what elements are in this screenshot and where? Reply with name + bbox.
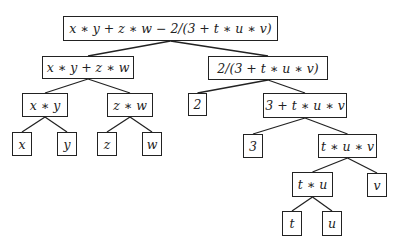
edge-n3-x bbox=[22, 117, 45, 132]
tree-node-n4: z ∗ w bbox=[107, 93, 153, 117]
edge-n6-n7 bbox=[253, 118, 305, 134]
edge-root-n2 bbox=[171, 41, 269, 56]
edge-n6-n8 bbox=[305, 118, 348, 134]
edge-n1-n3 bbox=[45, 79, 88, 93]
tree-node-n6: 3 + t ∗ u ∗ v bbox=[263, 93, 347, 118]
edge-n2-n5 bbox=[198, 80, 269, 93]
tree-node-w: w bbox=[142, 132, 162, 156]
tree-node-n7: 3 bbox=[243, 134, 263, 158]
edge-n8-v bbox=[348, 158, 378, 173]
tree-node-z: z bbox=[97, 132, 117, 156]
tree-node-y: y bbox=[57, 132, 77, 156]
edge-root-n1 bbox=[88, 41, 171, 56]
edge-n9-t bbox=[292, 197, 313, 211]
tree-node-v: v bbox=[367, 173, 387, 197]
tree-node-n9: t ∗ u bbox=[292, 172, 333, 197]
expression-tree-diagram: x ∗ y + z ∗ w − 2/(3 + t ∗ u ∗ v)x ∗ y +… bbox=[0, 0, 401, 251]
tree-node-n2: 2/(3 + t ∗ u ∗ v) bbox=[208, 56, 328, 80]
edge-n1-n4 bbox=[88, 79, 130, 93]
tree-node-n8: t ∗ u ∗ v bbox=[318, 134, 377, 158]
tree-node-x: x bbox=[12, 132, 32, 156]
tree-node-root: x ∗ y + z ∗ w − 2/(3 + t ∗ u ∗ v) bbox=[63, 16, 278, 41]
edge-n3-y bbox=[45, 117, 67, 132]
tree-node-n1: x ∗ y + z ∗ w bbox=[42, 56, 134, 79]
edge-n8-n9 bbox=[313, 158, 348, 172]
tree-node-n3: x ∗ y bbox=[22, 93, 68, 117]
tree-node-t: t bbox=[282, 211, 302, 236]
edge-n4-w bbox=[130, 117, 152, 132]
edge-n2-n6 bbox=[268, 80, 305, 93]
edge-n4-z bbox=[107, 117, 130, 132]
tree-node-n5: 2 bbox=[188, 93, 207, 116]
edge-n9-u bbox=[313, 197, 333, 211]
tree-node-u: u bbox=[322, 211, 342, 236]
